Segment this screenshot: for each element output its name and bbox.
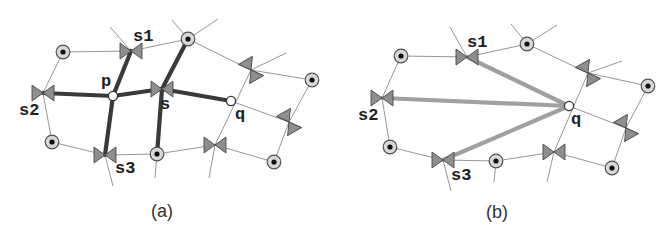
bowtie-icon <box>543 144 565 160</box>
panel-a: s1s2s3spq (a) <box>19 19 319 221</box>
node-label-s2: s2 <box>358 106 378 125</box>
site-node-icon <box>305 73 319 87</box>
site-node-icon <box>605 161 619 175</box>
highlighted-edge <box>382 98 569 106</box>
thin-edge <box>209 145 215 178</box>
site-node-icon <box>394 49 408 63</box>
highlighted-edge <box>105 96 113 155</box>
node-label-q: q <box>235 105 245 124</box>
site-node-icon <box>641 79 655 93</box>
panel-b: s1s2s3q (b) <box>358 24 655 222</box>
bowtie-icon <box>239 56 264 83</box>
site-node-icon <box>520 37 534 51</box>
node-label-p: p <box>101 72 111 91</box>
node-label-q: q <box>571 110 581 129</box>
bowtie-icon <box>32 85 54 101</box>
bowtie-icon <box>371 90 393 106</box>
site-node-icon <box>56 45 70 59</box>
thick-edges <box>382 57 569 160</box>
bowtie-nodes <box>371 49 638 168</box>
site-node-icon <box>150 147 164 161</box>
site-node-icon <box>267 155 281 169</box>
bowtie-icon <box>614 114 639 141</box>
node-label-s: s <box>160 95 170 114</box>
thin-edge <box>251 53 286 70</box>
query-point-icon <box>108 91 117 100</box>
node-label-s1: s1 <box>133 27 153 46</box>
bowtie-icon <box>277 108 302 135</box>
highlighted-edge <box>467 57 569 106</box>
panel-caption-b: (b) <box>486 202 508 222</box>
thick-edges <box>43 39 231 155</box>
node-label-s3: s3 <box>115 159 135 178</box>
highlighted-edge <box>162 39 188 89</box>
site-node-icon <box>383 140 397 154</box>
thin-edge <box>43 93 52 142</box>
node-label-s3: s3 <box>451 166 471 185</box>
thin-edge <box>215 70 251 145</box>
node-label-s2: s2 <box>19 101 39 120</box>
voronoi-diagram-figure: s1s2s3spq (a) s1s2s3q (b) <box>0 0 672 236</box>
site-node-icon <box>181 32 195 46</box>
bowtie-icon <box>204 137 226 153</box>
site-node-icon <box>45 135 59 149</box>
site-nodes <box>383 37 655 175</box>
node-label-s1: s1 <box>467 33 487 52</box>
thin-edge <box>382 98 390 147</box>
bowtie-icon <box>576 59 601 86</box>
thin-edge <box>588 61 622 73</box>
site-node-icon <box>489 154 503 168</box>
panel-caption-a: (a) <box>151 201 173 221</box>
